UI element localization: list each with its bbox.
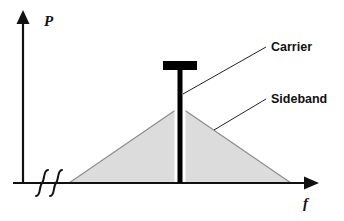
right-arrow-icon (304, 177, 319, 190)
y-axis-label: P (44, 13, 54, 29)
up-arrow-icon (17, 10, 30, 24)
sideband-leader-line (214, 99, 266, 130)
carrier-bar (178, 68, 183, 183)
sideband-label: Sideband (271, 92, 327, 106)
carrier-label: Carrier (271, 40, 312, 54)
carrier-cap (163, 61, 197, 70)
am-spectrum-diagram: Carrier Sideband P f (0, 0, 344, 221)
x-axis-label: f (303, 195, 310, 211)
carrier-leader-line (183, 47, 266, 94)
